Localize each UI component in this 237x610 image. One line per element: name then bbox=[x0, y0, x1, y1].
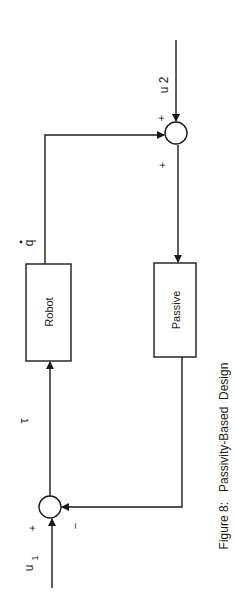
feedback-line bbox=[62, 357, 182, 507]
passive-label: Passive bbox=[170, 291, 182, 330]
u1-subscript: 1 bbox=[30, 555, 40, 560]
figure-caption: Figure 8: Passivity-Based Design bbox=[217, 363, 231, 550]
bottom-summing-junction bbox=[39, 496, 61, 518]
sign-bottom-u1: + bbox=[26, 525, 38, 531]
top-summing-junction bbox=[165, 122, 187, 144]
u2-label: u 2 bbox=[157, 76, 171, 93]
sign-top-feedback: + bbox=[156, 162, 168, 168]
qdot-signal-line bbox=[45, 135, 164, 264]
tau-label: τ bbox=[16, 418, 31, 424]
qdot-dot bbox=[20, 241, 23, 244]
sign-top-u2: + bbox=[155, 115, 167, 121]
robot-label: Robot bbox=[43, 297, 55, 326]
u1-label: u bbox=[22, 565, 36, 572]
sign-bottom-feedback: − bbox=[69, 523, 81, 529]
qdot-label: q bbox=[22, 240, 36, 247]
block-diagram: Robot Passive u 2 q τ u 1 + + + − Figure… bbox=[0, 0, 237, 610]
